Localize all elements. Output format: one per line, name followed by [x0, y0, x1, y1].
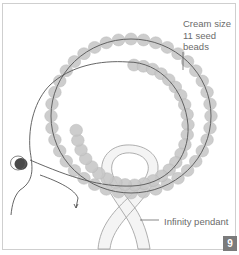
- step-number-badge: 9: [223, 236, 237, 251]
- seed-beads-label: Cream size 11 seed beads: [183, 18, 237, 53]
- accent-bead: [11, 156, 28, 170]
- seed-bead: [70, 124, 83, 136]
- inner-bead-ring: [70, 59, 194, 191]
- pendant-label: Infinity pendant: [164, 216, 228, 228]
